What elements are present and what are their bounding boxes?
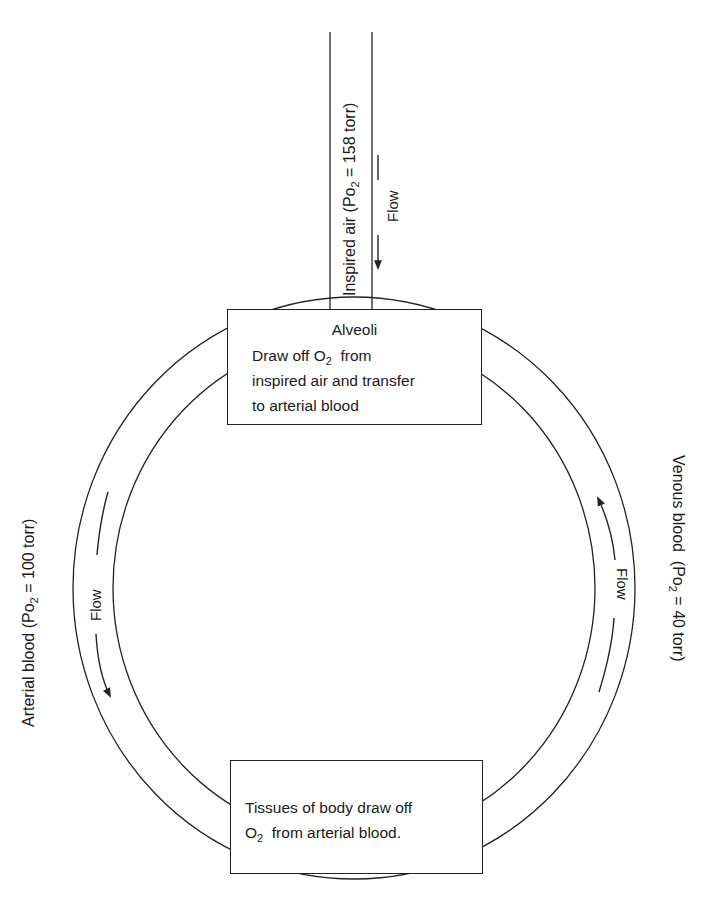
alveoli-line-1-suffix: from [332, 347, 372, 364]
venous-flow-arrow-icon [598, 498, 615, 560]
inspired-air-label-text: Inspired air (Po [341, 188, 358, 297]
alveoli-title: Alveoli [228, 317, 481, 342]
venous-blood-label: Venous blood (Po2 = 40 torr) [669, 455, 687, 662]
tissues-box: Tissues of body draw off O2 from arteria… [230, 760, 483, 874]
inspired-air-label: Inspired air (Po2 = 158 torr) [341, 103, 359, 296]
inspired-flow-label: Flow [384, 188, 401, 224]
tissues-line-2: O2 from arterial blood. [245, 820, 480, 845]
arterial-flow-tail [97, 492, 108, 555]
tissues-line-2-suffix: from arterial blood. [263, 824, 401, 841]
tissues-description: Tissues of body draw off O2 from arteria… [245, 795, 480, 845]
oxygen-flow-diagram: Alveoli Draw off O2 from inspired air an… [0, 0, 710, 913]
arterial-flow-arrow-icon [96, 634, 110, 696]
o2-subscript: 2 [349, 181, 361, 187]
alveoli-box: Alveoli Draw off O2 from inspired air an… [227, 309, 482, 425]
venous-blood-label-text: Venous blood (Po [670, 455, 687, 586]
tissues-line-2-text: O [245, 824, 257, 841]
inspired-air-pressure: = 158 torr) [341, 103, 358, 182]
venous-flow-label: Flow [614, 566, 631, 602]
venous-flow-tail [599, 618, 614, 692]
alveoli-description: Draw off O2 from inspired air and transf… [252, 343, 482, 418]
o2-subscript: 2 [28, 597, 40, 603]
alveoli-line-3: to arterial blood [252, 393, 482, 418]
arterial-flow-label: Flow [87, 587, 104, 623]
venous-blood-pressure: = 40 torr) [670, 592, 687, 662]
alveoli-line-1-text: Draw off O [252, 347, 326, 364]
alveoli-line-2: inspired air and transfer [252, 368, 482, 393]
arterial-blood-label: Arterial blood (Po2 = 100 torr) [20, 519, 38, 727]
arterial-blood-label-text: Arterial blood (Po [20, 603, 37, 727]
arterial-blood-pressure: = 100 torr) [20, 519, 37, 598]
tissues-line-1: Tissues of body draw off [245, 795, 480, 820]
alveoli-line-1: Draw off O2 from [252, 343, 482, 368]
